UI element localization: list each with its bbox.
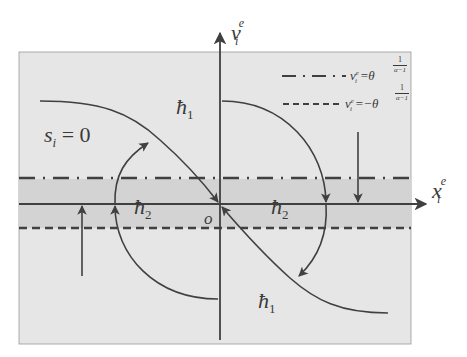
h2-left-label: ħ2: [134, 196, 152, 218]
legend-entry-lower-bound: vei=−θ: [345, 97, 378, 110]
legend-exp-lower: 1 α−1: [395, 84, 409, 102]
phase-plane-diagram: [0, 0, 467, 357]
h2-right-label: ħ2: [271, 196, 289, 218]
h1-top-label: ħ1: [176, 96, 194, 118]
legend-exp-upper: 1 α−1: [393, 56, 407, 74]
x-axis-label: xei: [432, 180, 450, 202]
y-axis-label: vei: [231, 22, 249, 44]
origin-label: o: [204, 210, 213, 227]
sliding-surface-label: si = 0: [44, 124, 91, 146]
legend-entry-upper-bound: vei=θ: [350, 69, 375, 82]
h1-bottom-label: ħ1: [258, 290, 276, 312]
